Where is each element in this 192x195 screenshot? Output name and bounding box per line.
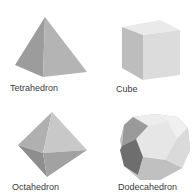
cube-shape: [122, 20, 180, 80]
octahedron-label: Octahedron: [12, 182, 59, 192]
octahedron-shape: [18, 112, 87, 177]
cube-left-face: [122, 27, 143, 80]
polyhedra-figure: [0, 0, 192, 195]
tetrahedron-label: Tetrahedron: [10, 83, 58, 93]
tetrahedron-shape: [15, 17, 87, 77]
tetrahedron-right-face: [43, 17, 87, 77]
tetrahedron-left-face: [15, 17, 45, 77]
dodecahedron-shape: [120, 114, 190, 180]
dodecahedron-label: Dodecahedron: [118, 182, 177, 192]
cube-front-face: [143, 30, 180, 80]
cube-label: Cube: [116, 84, 138, 94]
octahedron-lower-right-face: [43, 150, 87, 177]
